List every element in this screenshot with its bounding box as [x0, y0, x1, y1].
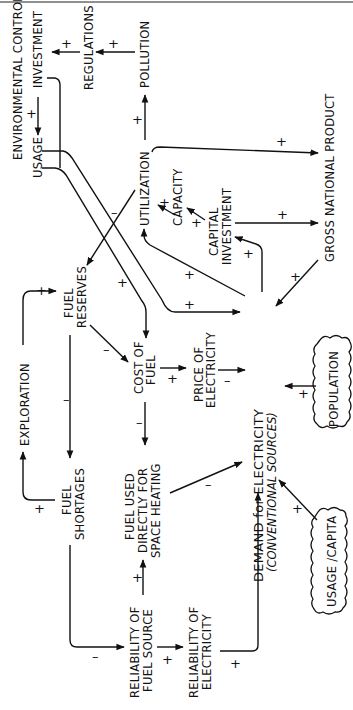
label-investment: INVESTMENT	[31, 10, 45, 88]
edge-investment-band	[47, 78, 60, 168]
sign-utilization-gnp: +	[276, 134, 287, 149]
causal-loop-diagram: ENVIRONMENTAL CONTROL INVESTMENT USAGE R…	[0, 0, 353, 710]
node-reliability-of-electricity: RELIABILITY OF ELECTRICITY	[187, 606, 214, 698]
node-usage-per-capita: USAGE /CAPITA	[311, 508, 347, 615]
label-population: POPULATION	[327, 351, 341, 427]
sign-exploration-reserves: +	[36, 283, 47, 298]
node-gross-national-product: GROSS NATIONAL PRODUCT	[323, 93, 337, 262]
sign-cost-price: +	[167, 371, 178, 386]
sign-shortages-exploration: +	[34, 501, 45, 516]
sign-capital-capacity: +	[191, 215, 202, 230]
label-fuel-3: FUEL	[60, 485, 74, 515]
edge-exploration-fuel-reserves	[23, 291, 56, 345]
node-utilization: UTILIZATION	[138, 151, 152, 226]
sign-shortages-reliability: –	[92, 649, 99, 664]
label-reserves: RESERVES	[75, 266, 89, 328]
label-investment-2: INVESTMENT	[220, 187, 234, 265]
edge-utilization-gnp	[152, 147, 318, 153]
sign-gnp-demand: +	[290, 269, 301, 284]
label-electricity-2: ELECTRICITY	[200, 613, 214, 690]
label-capital: CAPITAL	[207, 207, 221, 256]
sign-demand-utilization: +	[184, 267, 195, 282]
node-usage: USAGE	[31, 137, 45, 178]
sign-usage-capita-demand: +	[292, 501, 303, 516]
sign-regulations-investment: +	[61, 36, 72, 51]
sign-reliability-fuel-elec: +	[162, 652, 173, 667]
sign-reliability-elec-demand: +	[230, 656, 241, 671]
sign-usage-cost: +	[117, 275, 128, 290]
node-capital-investment: CAPITAL INVESTMENT	[207, 187, 234, 265]
edge-utilization-fuel-reserves	[87, 190, 135, 265]
sign-pollution-regulations: +	[108, 36, 119, 51]
sign-population-demand: +	[298, 386, 309, 401]
label-fuel-source: FUEL SOURCE	[141, 609, 155, 692]
sign-fuel-used-demand: –	[205, 477, 212, 492]
label-environmental-control: ENVIRONMENTAL CONTROL	[11, 0, 25, 160]
edge-shortages-reliability-fuel	[70, 545, 124, 647]
node-fuel-shortages: FUEL SHORTAGES	[60, 468, 87, 540]
sign-price-demand: –	[224, 373, 231, 388]
sign-reserves-cost: –	[103, 342, 110, 357]
sign-reserves-shortages: –	[63, 392, 70, 407]
node-reliability-of-fuel-source: RELIABILITY OF FUEL SOURCE	[128, 606, 155, 698]
node-population: POPULATION	[313, 336, 351, 429]
sign-capacity-utilization: +	[159, 195, 170, 210]
label-fuel-used: FUEL USED	[123, 473, 137, 540]
node-demand-for-electricity: DEMAND for ELECTRICITY (CONVENTIONAL SOU…	[251, 409, 279, 582]
label-reliability-of-2: RELIABILITY OF	[187, 606, 201, 698]
node-capacity: CAPACITY	[171, 168, 185, 226]
sign-cost-fuel-used: –	[136, 415, 143, 430]
node-regulations: REGULATIONS	[82, 5, 96, 90]
label-reliability-of: RELIABILITY OF	[128, 606, 142, 698]
node-exploration: EXPLORATION	[18, 363, 32, 446]
sign-usage-demand: +	[184, 297, 195, 312]
label-fuel-2: FUEL	[144, 355, 158, 385]
sign-utilization-reserves: –	[111, 205, 118, 220]
node-environmental-control-investment: ENVIRONMENTAL CONTROL INVESTMENT	[11, 0, 45, 160]
node-fuel-used-directly-for-space-heating: FUEL USED DIRECTLY FOR SPACE HEATING	[123, 463, 163, 558]
polarity-signs: + + + + + + + + + + + + + – + + – – + – …	[26, 36, 309, 671]
label-fuel: FUEL	[62, 288, 76, 318]
sign-demand-capital: +	[243, 246, 254, 261]
sign-utilization-pollution: +	[132, 112, 143, 127]
label-electricity: ELECTRICITY	[204, 331, 218, 408]
edge-shortages-exploration	[23, 452, 55, 500]
sign-reliability-fuel-used: +	[132, 570, 143, 585]
label-usage-capita: USAGE /CAPITA	[325, 516, 339, 607]
label-conventional-sources: (CONVENTIONAL SOURCES)	[265, 412, 279, 572]
node-price-of-electricity: PRICE OF ELECTRICITY	[192, 331, 218, 408]
sign-investment-usage: +	[26, 106, 37, 121]
node-cost-of-fuel: COST OF FUEL	[132, 341, 158, 394]
label-space-heating: SPACE HEATING	[149, 463, 163, 558]
sign-capital-gnp: +	[277, 207, 288, 222]
label-directly-for: DIRECTLY FOR	[136, 468, 150, 553]
node-fuel-reserves: FUEL RESERVES	[62, 266, 89, 328]
label-shortages: SHORTAGES	[73, 468, 87, 540]
node-pollution: POLLUTION	[138, 21, 152, 88]
